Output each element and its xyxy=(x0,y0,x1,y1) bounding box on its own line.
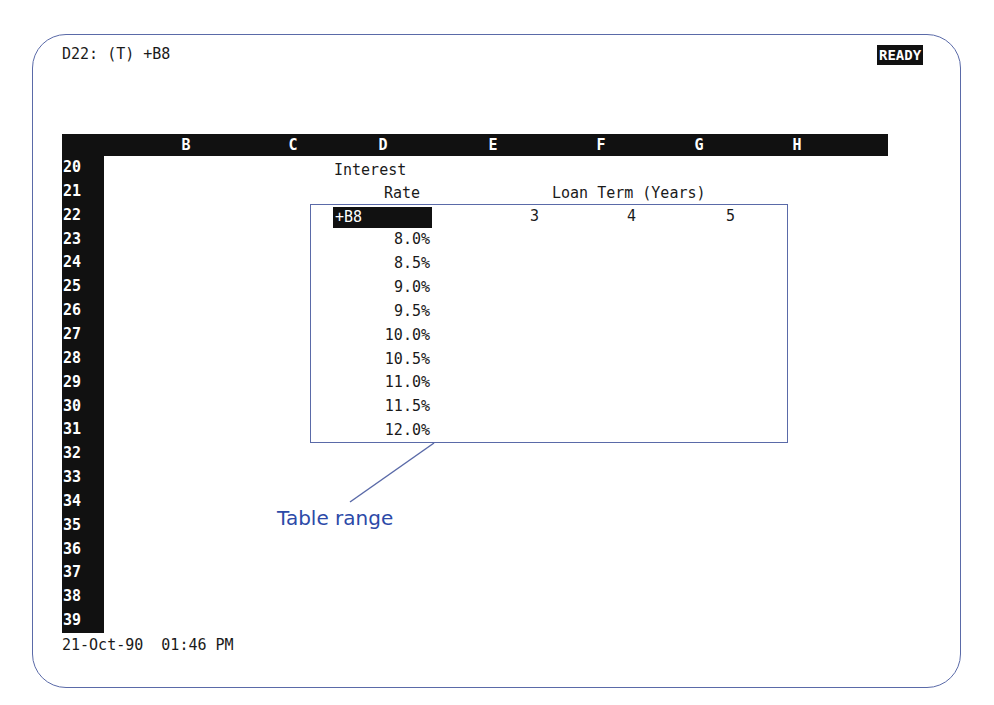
table-range-label: Table range xyxy=(277,506,393,530)
status-line-datetime: 21-Oct-90 01:46 PM xyxy=(62,636,234,654)
callout-leader-line xyxy=(0,0,994,705)
